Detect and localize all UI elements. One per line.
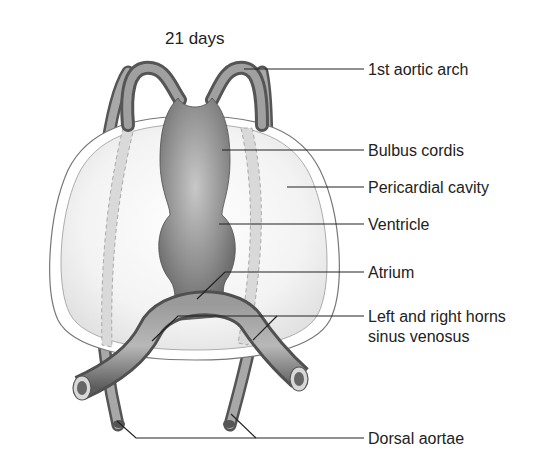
label-ventricle: Ventricle — [368, 215, 429, 234]
label-atrium: Atrium — [368, 263, 414, 282]
label-pericardial-cavity: Pericardial cavity — [368, 178, 489, 197]
label-dorsal-aortae: Dorsal aortae — [368, 429, 464, 448]
label-sinus-venosus-line1: Left and right horns — [368, 307, 506, 326]
label-sinus-venosus-line2: sinus venosus — [368, 327, 469, 346]
label-aortic-arch: 1st aortic arch — [368, 60, 468, 79]
label-bulbus-cordis: Bulbus cordis — [368, 141, 464, 160]
diagram-canvas: 21 days 1st aortic arch Bulbus cordis Pe… — [0, 0, 546, 466]
diagram-title: 21 days — [165, 29, 225, 49]
